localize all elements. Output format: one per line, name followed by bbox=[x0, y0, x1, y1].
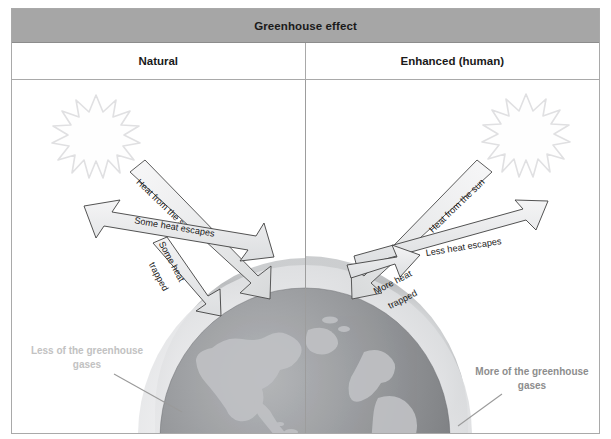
page-title: Greenhouse effect bbox=[254, 20, 357, 32]
column-header-enhanced: Enhanced (human) bbox=[306, 43, 600, 79]
column-header-natural: Natural bbox=[12, 43, 306, 79]
label-more-gases-line2: gases bbox=[518, 380, 547, 391]
label-more-gases-line1: More of the greenhouse bbox=[475, 366, 589, 377]
label-some-heat-trapped-line2: trapped bbox=[147, 260, 170, 292]
column-divider bbox=[305, 80, 306, 433]
figure-body: Heat from the sun Some heat escapes Some… bbox=[12, 80, 599, 433]
label-less-gases-line2: gases bbox=[73, 359, 102, 370]
column-header-row: Natural Enhanced (human) bbox=[12, 43, 599, 80]
label-more-greenhouse-gases: More of the greenhouse gases bbox=[458, 366, 589, 426]
label-less-gases-line1: Less of the greenhouse bbox=[31, 345, 144, 356]
greenhouse-effect-figure: Greenhouse effect Natural Enhanced (huma… bbox=[0, 0, 611, 439]
column-header-enhanced-label: Enhanced (human) bbox=[400, 55, 504, 67]
column-header-natural-label: Natural bbox=[138, 55, 178, 67]
figure-frame: Greenhouse effect Natural Enhanced (huma… bbox=[11, 8, 600, 434]
figure-title-bar: Greenhouse effect bbox=[12, 9, 599, 43]
sun-icon-enhanced bbox=[482, 94, 570, 177]
sun-icon-natural bbox=[52, 95, 140, 178]
arrow-some-heat-trapped: Some heat trapped bbox=[147, 237, 221, 316]
